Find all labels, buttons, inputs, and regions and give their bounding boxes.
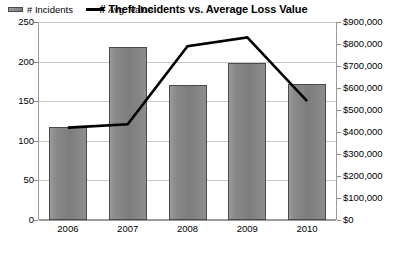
line-series-avg-value xyxy=(0,0,407,254)
legend-label-avg-value: Avg. Value xyxy=(108,4,153,15)
chart-legend: # Incidents Avg. Value xyxy=(8,4,153,15)
legend-item-avg-value: Avg. Value xyxy=(86,4,153,15)
legend-label-incidents: # Incidents xyxy=(27,4,73,15)
chart-container: # Theft Incidents vs. Average Loss Value… xyxy=(0,0,407,254)
legend-item-incidents: # Incidents xyxy=(8,4,73,15)
bar-swatch-icon xyxy=(8,7,23,12)
line-swatch-icon xyxy=(86,8,104,11)
